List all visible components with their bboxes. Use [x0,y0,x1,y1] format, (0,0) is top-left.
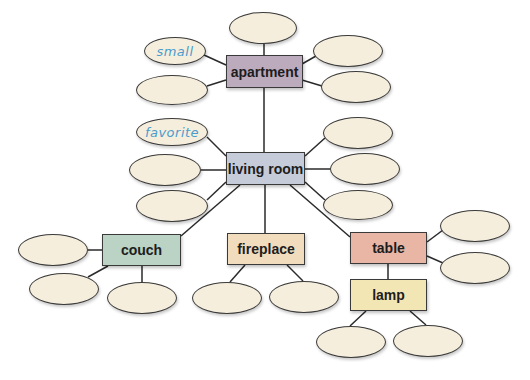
empty-bubble [330,153,400,185]
empty-bubble [136,75,208,105]
empty-bubble [269,281,339,313]
connector-line [302,80,322,86]
connector-line [305,138,325,156]
connector-line [305,182,325,200]
connector-line [207,182,226,200]
empty-bubble [321,71,391,103]
empty-bubble [29,273,99,305]
empty-bubble [393,325,463,357]
node-fireplace: fireplace [227,233,305,265]
connector-line [410,311,426,325]
connector-line [230,265,245,282]
connector-line [287,265,303,281]
node-lamp: lamp [350,279,427,311]
node-table: table [350,232,427,264]
connector-line [88,266,108,277]
empty-bubble [316,326,386,358]
node-living-room: living room [226,152,305,185]
empty-bubble [192,282,262,314]
empty-bubble [313,35,383,67]
connector-line [207,80,226,86]
empty-bubble [323,190,393,220]
node-couch: couch [102,234,181,266]
connector-line [427,256,443,263]
empty-bubble [136,190,208,222]
empty-bubble [18,234,88,266]
bubble-small: small [144,37,206,65]
connector-line [207,137,226,156]
word-web-diagram: smallfavorite apartment living room couc… [0,0,530,380]
empty-bubble [107,282,177,314]
node-apartment: apartment [226,55,303,88]
empty-bubble [440,210,510,242]
empty-bubble [440,252,510,284]
empty-bubble [129,154,201,186]
empty-bubble [323,117,393,149]
bubble-favorite: favorite [136,118,208,146]
connector-line [302,56,316,64]
connector-line [204,55,226,65]
connector-line [427,230,443,242]
connector-line [350,311,366,326]
empty-bubble [229,12,297,44]
